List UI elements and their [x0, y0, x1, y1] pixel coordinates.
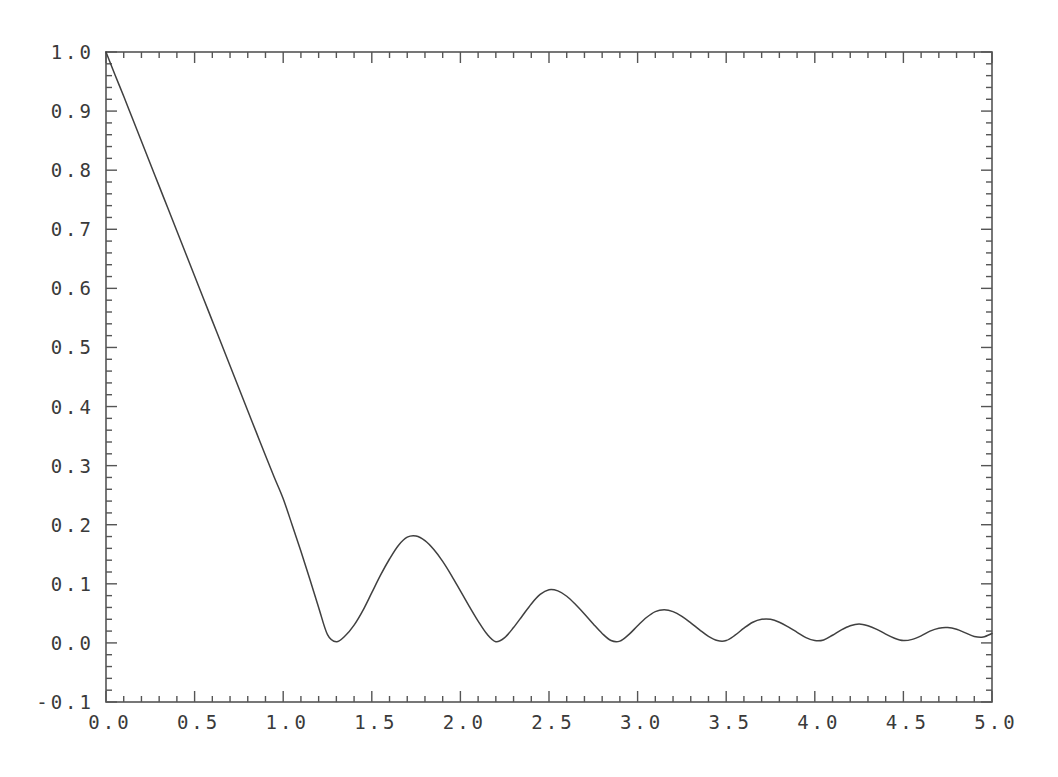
data-curve — [106, 52, 992, 642]
x-tick-label: 0.0 — [88, 713, 131, 732]
y-tick-label: 0.5 — [51, 338, 94, 357]
x-tick-label: 2.5 — [531, 713, 574, 732]
y-tick-label: 0.0 — [51, 633, 94, 652]
y-tick-label: 0.9 — [51, 102, 94, 121]
y-tick-label: 0.4 — [51, 397, 94, 416]
x-tick-label: 4.0 — [797, 713, 840, 732]
plot-svg — [0, 0, 1058, 777]
y-tick-label: 0.2 — [51, 515, 94, 534]
x-tick-label: 0.5 — [177, 713, 220, 732]
x-tick-label: 3.5 — [709, 713, 752, 732]
axes-frame — [106, 52, 992, 702]
x-tick-label: 3.0 — [620, 713, 663, 732]
axis-ticks — [106, 52, 992, 702]
x-tick-label: 4.5 — [886, 713, 929, 732]
y-tick-label: 0.8 — [51, 161, 94, 180]
y-tick-label: 0.6 — [51, 279, 94, 298]
x-tick-label: 1.5 — [354, 713, 397, 732]
x-tick-label: 2.0 — [443, 713, 486, 732]
y-tick-label: -0.1 — [36, 693, 94, 712]
y-tick-label: 0.3 — [51, 456, 94, 475]
x-tick-label: 1.0 — [266, 713, 309, 732]
y-tick-label: 0.1 — [51, 574, 94, 593]
y-tick-label: 0.7 — [51, 220, 94, 239]
y-tick-label: 1.0 — [51, 43, 94, 62]
figure-canvas: 1.00.90.80.70.60.50.40.30.20.10.0-0.1 0.… — [0, 0, 1058, 777]
x-tick-label: 5.0 — [974, 713, 1017, 732]
